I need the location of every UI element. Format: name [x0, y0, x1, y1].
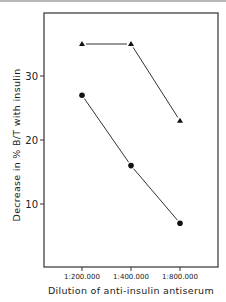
- series-lines: [84, 44, 178, 220]
- triangle-point: [177, 118, 183, 123]
- series-markers: [79, 41, 183, 226]
- triangle-point: [128, 41, 134, 46]
- y-tick-label: 10: [25, 199, 38, 210]
- x-axis-ticks: 1:200.0001:400.0001:800.000: [64, 267, 198, 281]
- y-tick-label: 30: [25, 71, 38, 82]
- x-tick-label: 1:200.000: [64, 273, 100, 281]
- y-tick-label: 20: [25, 135, 38, 146]
- x-tick-label: 1:800.000: [162, 273, 198, 281]
- circle-point: [128, 163, 134, 169]
- circles-series-segment: [84, 98, 128, 162]
- circle-point: [79, 92, 85, 98]
- triangle-point: [79, 41, 85, 46]
- y-axis-title: Decrease in % B/T with insulin: [11, 69, 22, 222]
- chart: 102030 1:200.0001:400.0001:800.000 Dilut…: [0, 0, 226, 302]
- circle-point: [177, 220, 183, 226]
- triangles-series-segment: [133, 47, 178, 117]
- x-axis-title: Dilution of anti-insulin antiserum: [48, 285, 214, 296]
- circles-series-segment: [134, 169, 178, 221]
- plot-frame: [44, 13, 218, 267]
- x-tick-label: 1:400.000: [113, 273, 149, 281]
- y-axis-ticks: 102030: [25, 71, 44, 210]
